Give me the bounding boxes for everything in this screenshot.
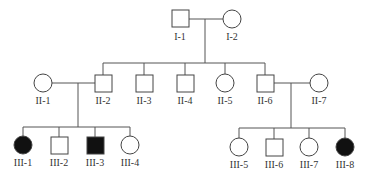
label-III-4: III-4 (121, 157, 139, 168)
individual-II-7-female (310, 74, 328, 92)
label-II-3: II-3 (137, 95, 152, 106)
label-II-5: II-5 (218, 95, 233, 106)
individual-III-7-female (300, 138, 318, 156)
individual-III-3-male-affected (87, 137, 104, 154)
generation-2: II-1 II-2 II-3 II-4 II-5 II-6 II-7 (34, 63, 328, 128)
label-III-6: III-6 (265, 159, 283, 170)
label-II-7: II-7 (312, 95, 327, 106)
individual-II-6-male (257, 75, 274, 92)
label-III-7: III-7 (300, 159, 318, 170)
pedigree-chart: I-1 I-2 II-1 II-2 II-3 II-4 II-5 II-6 II… (0, 0, 371, 179)
individual-I-2-female (223, 10, 241, 28)
individual-II-3-male (136, 75, 153, 92)
label-III-8: III-8 (336, 159, 354, 170)
individual-III-5-female (230, 138, 248, 156)
individual-III-1-female-affected (14, 136, 32, 154)
individual-I-1-male (172, 10, 189, 27)
label-II-2: II-2 (96, 95, 111, 106)
label-III-5: III-5 (230, 159, 248, 170)
individual-III-4-female (121, 136, 139, 154)
label-III-3: III-3 (86, 157, 104, 168)
label-I-2: I-2 (226, 31, 238, 42)
label-III-1: III-1 (14, 157, 32, 168)
individual-III-6-male (266, 139, 283, 156)
label-I-1: I-1 (174, 31, 186, 42)
individual-II-5-female (216, 74, 234, 92)
label-II-6: II-6 (258, 95, 273, 106)
generation-3-right: III-5 III-6 III-7 III-8 (230, 128, 354, 170)
generation-3-left: III-1 III-2 III-3 III-4 (14, 127, 139, 168)
individual-II-2-male (95, 75, 112, 92)
individual-II-1-female (34, 74, 52, 92)
individual-II-4-male (177, 75, 194, 92)
label-II-1: II-1 (36, 95, 51, 106)
label-II-4: II-4 (178, 95, 193, 106)
individual-III-2-male (51, 137, 68, 154)
label-III-2: III-2 (50, 157, 68, 168)
generation-1: I-1 I-2 (172, 10, 241, 63)
individual-III-8-female-affected (336, 138, 354, 156)
